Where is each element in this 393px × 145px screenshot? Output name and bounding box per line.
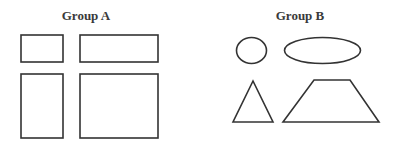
group-b-title: Group B <box>276 8 325 23</box>
circle <box>237 38 267 64</box>
large-rectangle <box>80 74 158 138</box>
small-rectangle <box>21 35 63 62</box>
shapes-diagram: Group A Group B <box>0 0 393 145</box>
triangle <box>233 81 273 122</box>
group-a-title: Group A <box>62 8 111 23</box>
trapezoid <box>283 80 379 122</box>
ellipse <box>285 38 361 64</box>
wide-rectangle <box>80 35 158 62</box>
group-b: Group B <box>233 8 379 122</box>
group-a: Group A <box>21 8 158 138</box>
tall-rectangle <box>21 74 63 138</box>
